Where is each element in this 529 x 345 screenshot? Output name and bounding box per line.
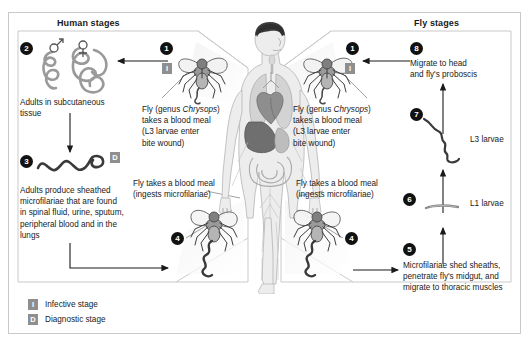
step-badge-1-left: 1: [160, 42, 173, 55]
step-text-1-right: Fly (genus Chrysops) takes a blood meal …: [293, 104, 398, 149]
section-title-fly-stages: Fly stages: [414, 18, 459, 28]
step-text-4-right: Fly takes a blood meal (ingests microfil…: [296, 178, 411, 200]
step-badge-8: 8: [410, 42, 423, 55]
step-badge-5: 5: [403, 243, 416, 256]
legend-item-infective: I Infective stage: [28, 298, 178, 311]
step-badge-7: 7: [410, 108, 423, 121]
step-badge-2: 2: [20, 42, 33, 55]
stage-marker-diagnostic-3: D: [110, 152, 120, 163]
step-badge-3: 3: [20, 155, 33, 168]
legend-key-diagnostic: D: [28, 314, 38, 325]
label-l3-larvae: L3 larvae: [470, 135, 504, 144]
step-badge-6: 6: [403, 193, 416, 206]
label-l1-larvae: L1 larvae: [470, 199, 504, 208]
diagram-canvas: Human stages Fly stages: [0, 0, 529, 345]
step-text-8: Migrate to head and fly's proboscis: [410, 58, 520, 80]
stage-marker-infective-1-right: I: [345, 63, 355, 74]
step-badge-4-left: 4: [171, 232, 184, 245]
legend-item-diagnostic: D Diagnostic stage: [28, 313, 178, 326]
step-badge-1-right: 1: [346, 42, 359, 55]
legend-key-infective: I: [28, 299, 38, 310]
step-badge-4-right: 4: [345, 232, 358, 245]
legend-label-diagnostic: Diagnostic stage: [45, 315, 106, 324]
step-text-2: Adults in subcutaneous tissue: [20, 97, 140, 119]
legend-label-infective: Infective stage: [45, 300, 98, 309]
stage-marker-infective-1-left: I: [162, 63, 172, 74]
step-text-4-left: Fly takes a blood meal (ingests microfil…: [133, 178, 248, 200]
section-title-human-stages: Human stages: [57, 18, 120, 28]
step-text-1-left: Fly (genus Chrysops) takes a blood meal …: [142, 104, 247, 149]
step-text-5: Microfilariae shed sheaths, penetrate fl…: [403, 260, 518, 294]
legend: I Infective stage D Diagnostic stage: [28, 298, 178, 328]
human-anatomy-illustration: [218, 22, 322, 294]
